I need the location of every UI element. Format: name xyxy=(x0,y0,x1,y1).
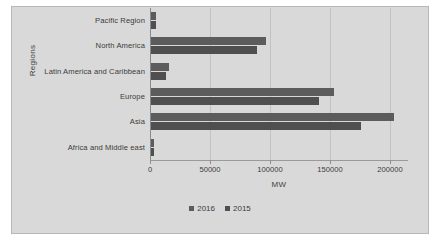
tickmark xyxy=(270,160,271,164)
legend-swatch-icon xyxy=(225,206,230,211)
chart-legend: 20162015 xyxy=(0,204,440,213)
x-tick-label: 0 xyxy=(148,165,152,174)
tickmark xyxy=(330,160,331,164)
bar-2015 xyxy=(150,122,361,130)
bar-2016 xyxy=(150,37,266,45)
legend-swatch-icon xyxy=(189,206,194,211)
legend-label: 2016 xyxy=(197,204,215,213)
plot-area xyxy=(150,8,408,160)
category-label: Europe xyxy=(18,84,148,109)
x-axis-title: MW xyxy=(150,180,408,189)
bar-group xyxy=(150,33,408,58)
bar-2016 xyxy=(150,113,394,121)
tickmark xyxy=(150,160,151,164)
x-tick-label: 50000 xyxy=(199,165,220,174)
value-axis-line xyxy=(150,8,151,160)
legend-label: 2015 xyxy=(233,204,251,213)
x-axis-tick-labels: 050000100000150000200000 xyxy=(150,165,408,177)
x-tick-label: 150000 xyxy=(317,165,342,174)
x-tick-label: 200000 xyxy=(377,165,402,174)
bar-2015 xyxy=(150,46,257,54)
bar-2016 xyxy=(150,63,169,71)
tickmark xyxy=(390,160,391,164)
bar-group xyxy=(150,109,408,134)
bar-2016 xyxy=(150,88,334,96)
x-tick-label: 100000 xyxy=(257,165,282,174)
bar-group xyxy=(150,8,408,33)
bar-2015 xyxy=(150,72,166,80)
category-label: Asia xyxy=(18,109,148,134)
bar-series-container xyxy=(150,8,408,160)
tickmark xyxy=(210,160,211,164)
bar-chart: Regions Pacific RegionNorth AmericaLatin… xyxy=(0,0,440,250)
legend-item-2016: 2016 xyxy=(189,204,215,213)
bar-2015 xyxy=(150,97,319,105)
bar-group xyxy=(150,84,408,109)
bar-group xyxy=(150,59,408,84)
category-label: Pacific Region xyxy=(18,8,148,33)
category-axis-labels: Pacific RegionNorth AmericaLatin America… xyxy=(18,8,148,160)
legend-item-2015: 2015 xyxy=(225,204,251,213)
bar-group xyxy=(150,135,408,160)
category-label: Africa and Middle east xyxy=(18,135,148,160)
category-label: North America xyxy=(18,33,148,58)
category-label: Latin America and Caribbean xyxy=(18,59,148,84)
